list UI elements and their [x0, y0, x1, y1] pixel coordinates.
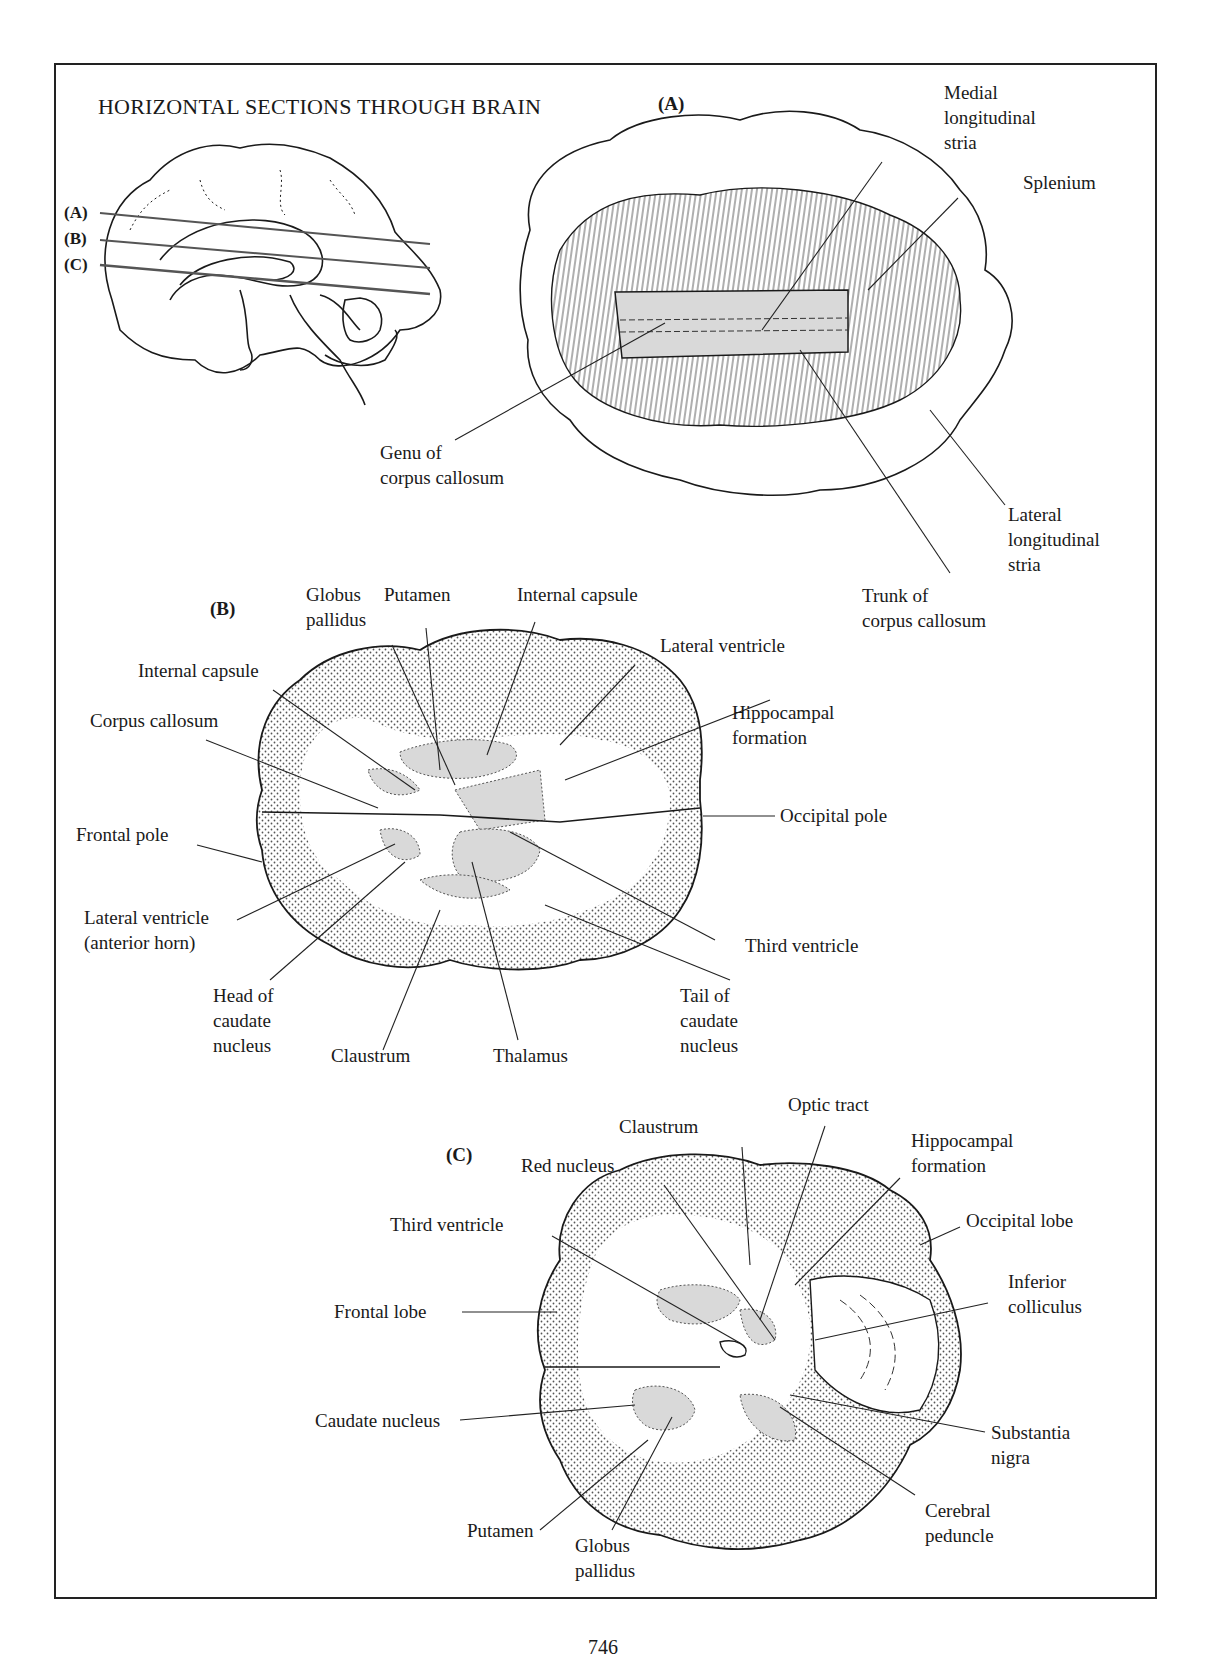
cut-label-b: (B) [64, 229, 87, 249]
label-c-optic-tract: Optic tract [788, 1092, 869, 1117]
label-b-globus-pallidus: Globus pallidus [306, 582, 366, 632]
label-c-frontal-lobe: Frontal lobe [334, 1299, 426, 1324]
panel-a-label: (A) [658, 93, 684, 115]
label-c-putamen: Putamen [467, 1518, 534, 1543]
cut-label-c: (C) [64, 255, 88, 275]
sagittal-brain-diagram [105, 144, 441, 405]
label-genu-corpus-callosum: Genu of corpus callosum [380, 440, 504, 490]
label-c-caudate-nucleus: Caudate nucleus [315, 1408, 440, 1433]
label-b-occipital-pole: Occipital pole [780, 803, 887, 828]
label-lateral-longitudinal-stria: Lateral longitudinal stria [1008, 502, 1100, 577]
label-c-cerebral-peduncle: Cerebral peduncle [925, 1498, 994, 1548]
panel-c-drawing [538, 1154, 961, 1549]
label-b-lateral-ventricle: Lateral ventricle [660, 633, 785, 658]
label-b-tail-caudate-nucleus: Tail of caudate nucleus [680, 983, 738, 1058]
label-c-claustrum: Claustrum [619, 1114, 698, 1139]
label-b-hippocampal-formation: Hippocampal formation [732, 700, 834, 750]
label-b-claustrum: Claustrum [331, 1043, 410, 1068]
page-number: 746 [588, 1636, 618, 1658]
label-b-internal-capsule-top: Internal capsule [517, 582, 638, 607]
label-c-third-ventricle: Third ventricle [390, 1212, 503, 1237]
label-b-internal-capsule-left: Internal capsule [138, 658, 259, 683]
label-c-red-nucleus: Red nucleus [521, 1153, 614, 1178]
label-c-hippocampal-formation: Hippocampal formation [911, 1128, 1013, 1178]
label-c-inferior-colliculus: Inferior colliculus [1008, 1269, 1082, 1319]
label-b-lateral-ventricle-anterior-horn: Lateral ventricle (anterior horn) [84, 905, 209, 955]
label-b-third-ventricle: Third ventricle [745, 933, 858, 958]
label-b-putamen: Putamen [384, 582, 451, 607]
label-medial-longitudinal-stria: Medial longitudinal stria [944, 80, 1036, 155]
label-trunk-corpus-callosum: Trunk of corpus callosum [862, 583, 986, 633]
panel-b-label: (B) [210, 598, 235, 620]
label-splenium: Splenium [1023, 170, 1096, 195]
label-b-head-caudate-nucleus: Head of caudate nucleus [213, 983, 274, 1058]
panel-c-label: (C) [446, 1144, 472, 1166]
label-b-corpus-callosum: Corpus callosum [90, 708, 218, 733]
panel-b-drawing [257, 630, 702, 970]
label-c-substantia-nigra: Substantia nigra [991, 1420, 1070, 1470]
label-c-globus-pallidus: Globus pallidus [575, 1533, 635, 1583]
panel-a-drawing [520, 111, 1012, 495]
cut-label-a: (A) [64, 203, 88, 223]
label-c-occipital-lobe: Occipital lobe [966, 1208, 1073, 1233]
label-b-thalamus: Thalamus [493, 1043, 568, 1068]
label-b-frontal-pole: Frontal pole [76, 822, 168, 847]
